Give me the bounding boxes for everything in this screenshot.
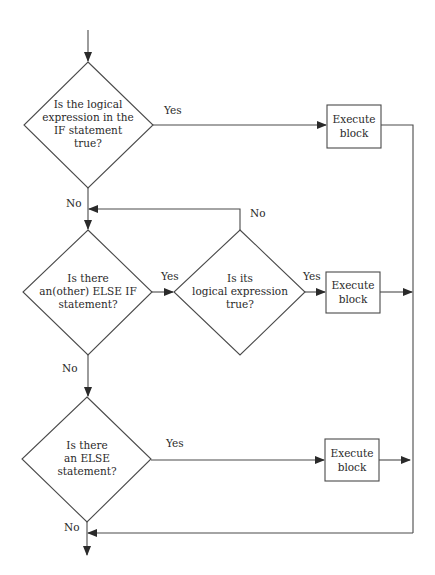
decision-if-line: true?	[38, 137, 138, 150]
execute-block-line: block	[327, 126, 381, 140]
decision-condition-line: Is its	[180, 272, 300, 285]
edge-label-d3-no: No	[250, 207, 266, 219]
decision-else-line: statement?	[42, 465, 132, 478]
edge-label-d2-no: No	[62, 362, 78, 374]
execute-block-line: Execute	[327, 112, 381, 126]
execute-block-line: block	[326, 292, 380, 306]
edge-label-d3-yes: Yes	[303, 270, 321, 282]
edge-label-d4-yes: Yes	[166, 437, 184, 449]
execute-block-line: Execute	[325, 446, 379, 460]
decision-if-line: Is the logical	[38, 98, 138, 111]
decision-else-if-condition-text: Is its logical expression true?	[180, 272, 300, 311]
edge-label-d2-yes: Yes	[161, 270, 179, 282]
decision-if-line: IF statement	[38, 124, 138, 137]
decision-else-line: an ELSE	[42, 452, 132, 465]
decision-else-if-text: Is there an(other) ELSE IF statement?	[33, 272, 143, 311]
decision-condition-line: true?	[180, 298, 300, 311]
decision-else-if-line: statement?	[33, 298, 143, 311]
edge-label-d1-yes: Yes	[164, 104, 182, 116]
execute-block-if-text: Execute block	[327, 112, 381, 140]
execute-block-line: block	[325, 460, 379, 474]
decision-else-if-line: an(other) ELSE IF	[33, 285, 143, 298]
decision-if-text: Is the logical expression in the IF stat…	[38, 98, 138, 150]
block1-exit-connector	[381, 125, 413, 533]
decision-else-line: Is there	[42, 439, 132, 452]
decision-condition-line: logical expression	[180, 285, 300, 298]
execute-block-line: Execute	[326, 278, 380, 292]
decision-else-if-line: Is there	[33, 272, 143, 285]
execute-block-else-text: Execute block	[325, 446, 379, 474]
decision-if-line: expression in the	[38, 111, 138, 124]
d3-no-loop-connector	[89, 209, 240, 230]
execute-block-else-if-text: Execute block	[326, 278, 380, 306]
edge-label-d1-no: No	[66, 197, 82, 209]
decision-else-text: Is there an ELSE statement?	[42, 439, 132, 478]
edge-label-d4-no: No	[64, 521, 80, 533]
